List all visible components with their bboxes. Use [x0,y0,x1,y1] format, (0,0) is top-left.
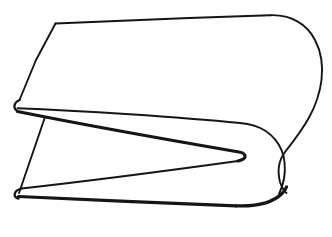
upper-face [13,15,322,130]
folded-sheet-drawing [0,0,332,237]
figure-canvas [0,0,332,237]
